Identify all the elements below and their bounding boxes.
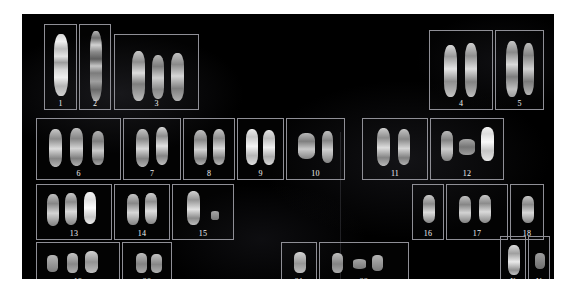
chromosome: [70, 128, 83, 166]
chromosome: [65, 193, 77, 225]
chromosome: [535, 253, 545, 269]
chromosome: [444, 45, 457, 97]
chromosome-box-8[interactable]: 8: [183, 118, 235, 180]
chromosome: [294, 252, 306, 273]
chromosome-box-x[interactable]: X: [500, 236, 526, 279]
chromosome: [213, 129, 225, 165]
chromosome-label: 9: [238, 169, 283, 178]
chromosome-label: 17: [447, 229, 507, 238]
chromosome: [479, 195, 491, 223]
chromosome: [136, 253, 147, 273]
chromosome-box-22[interactable]: 22: [319, 242, 409, 279]
chromosome-label: 16: [413, 229, 443, 238]
chromosome-box-13[interactable]: 13: [36, 184, 112, 240]
chromosome-label: 5: [496, 99, 543, 108]
chromosome: [372, 255, 383, 271]
chromosome: [377, 128, 390, 166]
chromosome: [398, 129, 410, 165]
chromosome-box-3[interactable]: 3: [114, 34, 199, 110]
chromosome: [152, 55, 164, 99]
chromosome-box-7[interactable]: 7: [123, 118, 181, 180]
chromosome-label: 2: [80, 99, 110, 108]
chromosome: [508, 245, 520, 275]
chromosome: [187, 191, 200, 225]
chromosome-box-15[interactable]: 15: [172, 184, 234, 240]
chromosome: [132, 51, 145, 101]
chromosome: [145, 193, 157, 224]
chromosome-box-17[interactable]: 17: [446, 184, 508, 240]
chromosome: [84, 192, 96, 224]
chromosome: [332, 253, 343, 273]
chromosome-box-6[interactable]: 6: [36, 118, 121, 180]
chromosome-label: 6: [37, 169, 120, 178]
chromosome: [459, 139, 475, 155]
chromosome-label: 1: [45, 99, 76, 108]
karyotype-image: 1 2 3 4 5 6 7 8 9: [22, 14, 554, 279]
chromosome-label: 14: [115, 229, 169, 238]
chromosome-label: 12: [431, 169, 503, 178]
chromosome-box-12[interactable]: 12: [430, 118, 504, 180]
chromosome-label: 10: [287, 169, 344, 178]
chromosome-box-10[interactable]: 10: [286, 118, 345, 180]
chromosome: [441, 131, 453, 161]
chromosome-box-14[interactable]: 14: [114, 184, 170, 240]
chromosome: [322, 131, 333, 163]
chromosome-label: 22: [320, 277, 408, 279]
chromosome-box-11[interactable]: 11: [362, 118, 428, 180]
chromosome-label: 11: [363, 169, 427, 178]
chromosome-label: 3: [115, 99, 198, 108]
chromosome: [194, 130, 207, 165]
chromosome-label: 8: [184, 169, 234, 178]
chromosome-box-18[interactable]: 18: [510, 184, 544, 240]
chromosome-box-20[interactable]: 20: [122, 242, 172, 279]
chromosome-label: Y: [529, 277, 549, 279]
chromosome: [211, 211, 219, 220]
chromosome: [47, 255, 58, 272]
chromosome-label: 21: [282, 277, 316, 279]
chromosome-box-9[interactable]: 9: [237, 118, 284, 180]
chromosome: [49, 129, 62, 167]
chromosome-label: 7: [124, 169, 180, 178]
chromosome-label: 15: [173, 229, 233, 238]
chromosome-box-5[interactable]: 5: [495, 30, 544, 110]
chromosome-box-2[interactable]: 2: [79, 24, 111, 110]
chromosome-box-y[interactable]: Y: [528, 236, 550, 279]
chromosome-box-4[interactable]: 4: [429, 30, 493, 110]
chromosome-box-16[interactable]: 16: [412, 184, 444, 240]
chromosome-label: 19: [37, 277, 119, 279]
chromosome-label: X: [501, 277, 525, 279]
chromosome-box-19[interactable]: 19: [36, 242, 120, 279]
chromosome: [506, 41, 518, 97]
chromosome: [246, 129, 258, 165]
chromosome: [522, 196, 534, 223]
chromosome: [151, 254, 162, 273]
chromosome-box-21[interactable]: 21: [281, 242, 317, 279]
chromosome: [459, 196, 471, 223]
chromosome: [67, 253, 78, 273]
chromosome: [90, 31, 102, 101]
chromosome: [92, 131, 104, 165]
chromosome: [353, 259, 366, 269]
chromosome-label: 20: [123, 277, 171, 279]
chromosome: [523, 43, 534, 95]
chromosome: [54, 34, 68, 96]
chromosome: [127, 194, 139, 225]
chromosome: [263, 130, 275, 165]
chromosome: [298, 133, 315, 159]
chromosome: [156, 127, 168, 165]
chromosome: [136, 129, 149, 167]
chromosome: [47, 194, 59, 226]
chromosome-box-1[interactable]: 1: [44, 24, 77, 110]
chromosome: [171, 53, 184, 101]
chromosome-label: 4: [430, 99, 492, 108]
chromosome: [465, 43, 477, 97]
chromosome: [423, 195, 435, 223]
chromosome-label: 13: [37, 229, 111, 238]
chromosome: [481, 127, 494, 161]
chromosome: [85, 251, 98, 273]
